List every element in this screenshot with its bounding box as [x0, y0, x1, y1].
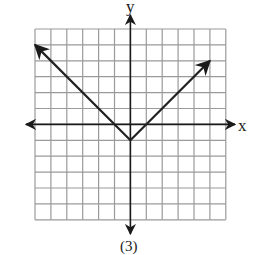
x-axis-label: x	[238, 116, 247, 136]
y-axis-label: y	[126, 0, 135, 17]
figure-caption: (3)	[120, 238, 138, 255]
coordinate-plane	[0, 0, 257, 255]
axes	[26, 15, 235, 234]
